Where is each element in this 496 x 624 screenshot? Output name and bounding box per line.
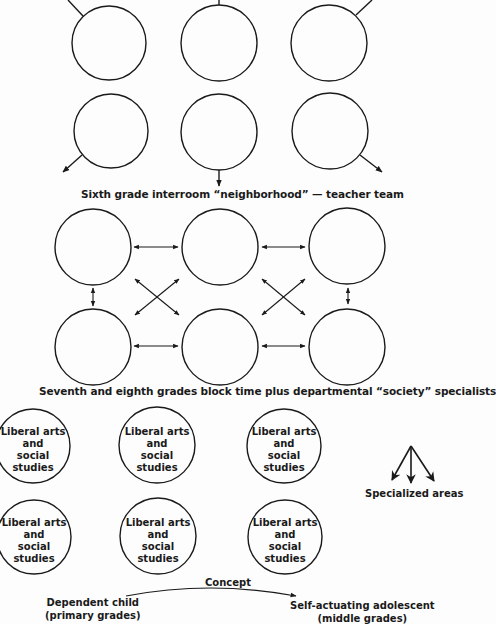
circle-label: Liberal arts and social studies [0,517,71,565]
specialized-areas-arrows-icon [392,446,434,483]
concept-arrow [126,588,296,596]
circle-label: Liberal arts and social studies [247,426,321,474]
specialized-areas-label: Specialized areas [365,487,464,500]
concept-title: Concept [205,576,251,589]
section2-circles [55,208,385,385]
section1-caption: Sixth grade interroom “neighborhood” — t… [81,188,404,200]
circle-label: Liberal arts and social studies [121,517,195,565]
section2-caption: Seventh and eighth grades block time plu… [39,385,496,397]
concept-from: Dependent child (primary grades) [45,596,141,622]
concept-to: Self-actuating adolescent (middle grades… [290,599,435,624]
section1-circles [72,5,368,170]
circle-label: Liberal arts and social studies [120,426,194,474]
circle-label: Liberal arts and social studies [248,517,322,565]
section2-arrows [93,247,348,346]
circle-label: Liberal arts and social studies [0,426,70,474]
